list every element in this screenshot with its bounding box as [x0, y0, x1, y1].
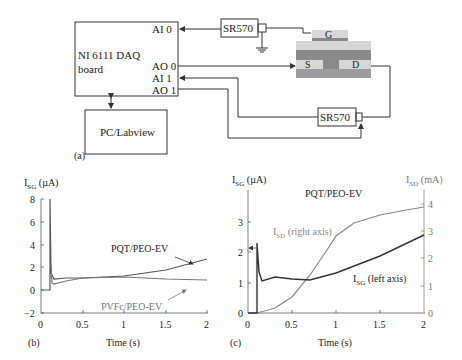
port-ai0: AI 0: [152, 23, 172, 35]
c-annotation-isg: ISG (left axis): [353, 273, 406, 287]
figure: NI 6111 DAQ board AI 0 AO 0 AI 1 AO 1 PC…: [0, 0, 462, 360]
c-xtick: 1: [333, 319, 338, 330]
b-ytick: 8: [30, 194, 35, 205]
b-ytick: 0: [30, 285, 35, 296]
c-ytick: 1: [238, 278, 243, 289]
sr570-top-label: SR570: [223, 22, 253, 34]
b-ytick: 4: [30, 240, 35, 251]
series-pvfc-peo-ev: [51, 264, 207, 284]
c-annotation-isd: ISD (right axis): [273, 226, 332, 240]
c-ylabel: ISG (µA): [232, 174, 266, 188]
daq-board-label-line1: NI 6111 DAQ: [78, 49, 140, 61]
b-xtick: 1: [121, 319, 126, 330]
c-ytick-right: 4: [428, 199, 433, 210]
c-ytick: 0: [238, 308, 243, 319]
c-ytick: 2: [238, 247, 243, 258]
c-ytick-right: 2: [428, 253, 433, 264]
b-ytick: 6: [30, 217, 35, 228]
b-ytick: −2: [24, 308, 35, 319]
daq-board-label-line2: board: [78, 63, 104, 75]
pc-labview-label: PC/Labview: [100, 126, 155, 138]
panel-a-label: (a): [74, 150, 85, 162]
c-panel-label: (c): [230, 337, 241, 349]
b-annotation-pvfc: PVFc/PEO-EV: [101, 301, 163, 312]
panel-b-chart: 8 6 4 2 0 −2 0 0.5 1 1.5 2 Time (s) (b) …: [24, 177, 209, 349]
b-xtick: 1.5: [159, 319, 172, 330]
b-annotation-pqt: PQT/PEO-EV: [111, 243, 169, 254]
b-panel-label: (b): [28, 337, 40, 349]
b-ylabel: ISG (µA): [24, 177, 58, 191]
panel-c-chart: 3 2 1 0 4 3 2 1 0 0 0.5 1 1.5 2 Time (s)…: [230, 174, 442, 349]
b-xtick: 0.5: [76, 319, 89, 330]
c-ytick-right: 3: [428, 226, 433, 237]
b-ytick: 2: [30, 262, 35, 273]
source-label: S: [305, 59, 311, 70]
port-ao1: AO 1: [152, 84, 176, 96]
series-isd-right: [257, 207, 424, 313]
c-ylabel-right: ISD (mA): [406, 174, 442, 188]
c-xlabel: Time (s): [318, 337, 352, 349]
c-xtick: 0.5: [285, 319, 298, 330]
b-xlabel: Time (s): [106, 337, 140, 349]
port-ao0: AO 0: [152, 60, 177, 72]
sr570-bottom-label: SR570: [320, 111, 350, 123]
c-xtick: 1.5: [373, 319, 386, 330]
b-xtick: 0: [38, 319, 43, 330]
c-ytick: 3: [238, 217, 243, 228]
transistor-device: [296, 30, 371, 78]
c-ytick-right: 0: [428, 308, 433, 319]
drain-label: D: [352, 59, 359, 70]
c-title: PQT/PEO-EV: [305, 188, 363, 199]
c-ytick-right: 1: [428, 281, 433, 292]
port-ai1: AI 1: [152, 72, 172, 84]
c-xtick: 0: [245, 319, 250, 330]
b-xtick: 2: [204, 319, 209, 330]
gate-label: G: [325, 29, 332, 40]
c-xtick: 2: [421, 319, 426, 330]
